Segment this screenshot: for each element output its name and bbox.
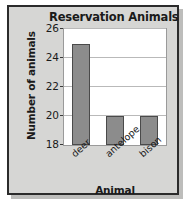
gridline-26 xyxy=(64,28,166,29)
plot-area xyxy=(63,28,167,146)
y-tick-mark-24 xyxy=(60,57,63,58)
y-tick-mark-22 xyxy=(60,86,63,87)
y-tick-label-24: 24 xyxy=(37,51,59,63)
y-tick-label-18: 18 xyxy=(37,138,59,150)
chart-figure: Reservation Animals Number of animals 18… xyxy=(0,0,192,212)
y-axis-label: Number of animals xyxy=(24,40,38,140)
y-tick-mark-26 xyxy=(60,28,63,29)
bar-deer xyxy=(72,44,90,146)
x-axis-label: Animal xyxy=(63,183,167,197)
y-tick-mark-18 xyxy=(60,144,63,145)
y-tick-mark-20 xyxy=(60,115,63,116)
y-tick-label-26: 26 xyxy=(37,22,59,34)
figure-frame: Reservation Animals Number of animals 18… xyxy=(7,5,179,195)
y-tick-label-20: 20 xyxy=(37,109,59,121)
chart-title: Reservation Animals xyxy=(49,10,175,25)
y-tick-label-22: 22 xyxy=(37,80,59,92)
